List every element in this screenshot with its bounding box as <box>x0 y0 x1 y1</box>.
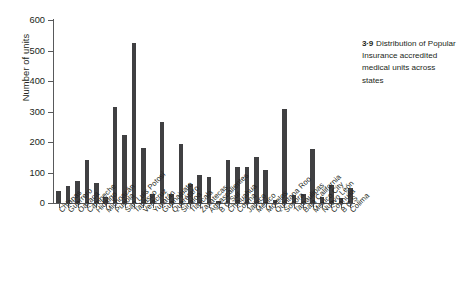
bar-chart: Number of units 0100200300400500600 Chia… <box>0 0 356 285</box>
bar-series <box>54 20 355 203</box>
y-tick-label: 100 <box>29 168 45 178</box>
x-axis-labels: ChiapasGuerreroOaxacaCampecheHidalgoMich… <box>54 208 384 285</box>
y-tick-label: 400 <box>29 76 45 86</box>
y-tick-label: 200 <box>29 137 45 147</box>
bar <box>132 43 137 203</box>
caption-number: 3·9 <box>362 39 373 48</box>
figure-caption: 3·9Distribution of Popular Insurance acc… <box>362 38 456 87</box>
y-tick-label: 0 <box>40 198 45 208</box>
figure: Number of units 0100200300400500600 Chia… <box>0 0 459 285</box>
y-tick-label: 300 <box>29 107 45 117</box>
caption-text: Distribution of Popular Insurance accred… <box>362 39 456 85</box>
y-tick-label: 600 <box>29 15 45 25</box>
y-tick-label: 500 <box>29 46 45 56</box>
bar <box>56 191 61 203</box>
